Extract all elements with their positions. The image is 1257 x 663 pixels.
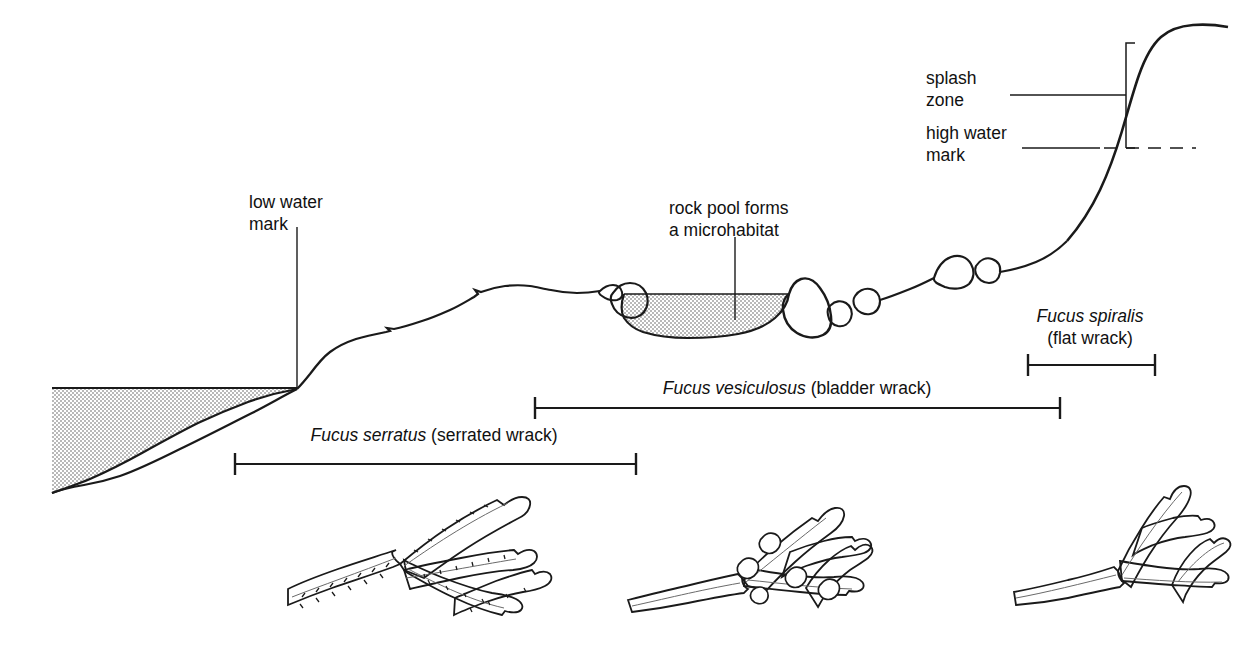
low-water-mark-label-line1: low water [249, 192, 323, 212]
diagram-canvas: splash zone high water mark low water ma… [0, 0, 1257, 663]
zone-species-fucus-vesiculosus: Fucus vesiculosus [663, 378, 806, 398]
shore-profile-diagram: splash zone high water mark low water ma… [0, 0, 1257, 663]
cliff-profile [1067, 25, 1228, 241]
specimen-fucus-serratus [288, 497, 551, 615]
low-water-mark-label-line2: mark [249, 214, 288, 234]
splash-zone-label-line1: splash [926, 68, 977, 88]
sea-water-body [52, 388, 297, 493]
rock-pool-label-line2: a microhabitat [669, 220, 779, 240]
rock-pool [621, 294, 789, 338]
zone-species-fucus-spiralis: Fucus spiralis [1037, 306, 1144, 326]
zone-bar-fucus-serratus: Fucus serratus (serrated wrack) [235, 425, 636, 475]
zone-bar-fucus-vesiculosus: Fucus vesiculosus (bladder wrack) [535, 378, 1060, 419]
svg-text:Fucus vesiculosus (bladder wra: Fucus vesiculosus (bladder wrack) [663, 378, 931, 398]
splash-zone-bracket [1010, 43, 1135, 148]
zone-common-fucus-serratus: (serrated wrack) [431, 425, 557, 445]
high-water-mark-label-line1: high water [926, 123, 1007, 143]
upper-shore-line [880, 241, 1067, 300]
svg-text:Fucus serratus (serrated wrack: Fucus serratus (serrated wrack) [310, 425, 557, 445]
high-water-mark-label-line2: mark [926, 145, 965, 165]
zone-species-fucus-serratus: Fucus serratus [310, 425, 426, 445]
specimen-fucus-spiralis [1014, 486, 1230, 605]
specimen-fucus-vesiculosus [628, 508, 872, 612]
zone-common-fucus-spiralis: (flat wrack) [1047, 328, 1133, 348]
splash-zone-label-line2: zone [926, 90, 964, 110]
zone-bar-fucus-spiralis: Fucus spiralis (flat wrack) [1028, 306, 1155, 376]
zone-common-fucus-vesiculosus: (bladder wrack) [811, 378, 932, 398]
rock-pool-label-line1: rock pool forms [669, 198, 789, 218]
